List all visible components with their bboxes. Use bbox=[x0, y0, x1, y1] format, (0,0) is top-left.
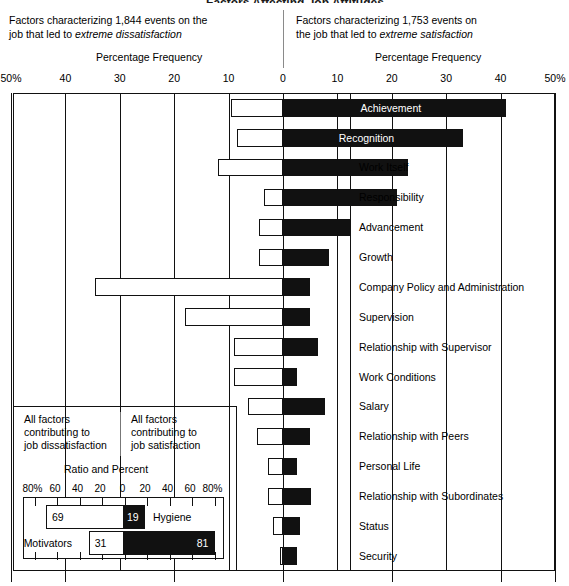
bar-category-label: Work Itself bbox=[359, 161, 408, 173]
bar-row: Achievement bbox=[0, 93, 569, 123]
bar-category-label: Status bbox=[359, 520, 389, 532]
bar-satisfaction bbox=[283, 278, 310, 296]
inset-tick-mark bbox=[35, 552, 36, 560]
inset-title: Ratio and Percent bbox=[64, 463, 148, 475]
bar-category-label: Supervision bbox=[359, 311, 414, 323]
inset-caption-divider bbox=[120, 412, 121, 456]
bar-category-label: Personal Life bbox=[359, 460, 420, 472]
inset-value-positive: 81 bbox=[197, 537, 209, 549]
inset-caption-left: All factorscontributing tojob dissatisfa… bbox=[24, 413, 107, 452]
axis-tick-label: 0 bbox=[263, 72, 303, 84]
bar-dissatisfaction bbox=[234, 338, 283, 356]
inset-tick-mark bbox=[147, 498, 148, 506]
inset-caption-left-line: contributing to bbox=[24, 426, 107, 439]
bar-dissatisfaction bbox=[95, 278, 283, 296]
inset-tick-mark bbox=[215, 552, 216, 560]
bar-row: Recognition bbox=[0, 123, 569, 153]
bar-dissatisfaction bbox=[268, 458, 283, 476]
bar-satisfaction bbox=[283, 219, 351, 237]
bar-satisfaction bbox=[283, 368, 297, 386]
clipped-figure-title: Factors Affecting Job Attitudes bbox=[150, 0, 440, 3]
bar-row: Relationship with Supervisor bbox=[0, 332, 569, 362]
axis-tick-label: 30 bbox=[100, 72, 140, 84]
bar-category-label: Salary bbox=[359, 400, 389, 412]
axis-bottom-tick bbox=[174, 571, 175, 582]
axis-title-right: Percentage Frequency bbox=[375, 51, 481, 63]
caption-left-line2a: job that led to bbox=[9, 28, 75, 40]
bar-dissatisfaction bbox=[264, 189, 283, 207]
bar-dissatisfaction bbox=[268, 488, 283, 506]
bar-row: Growth bbox=[0, 242, 569, 272]
caption-left: Factors characterizing 1,844 events on t… bbox=[9, 14, 259, 41]
bar-category-label: Relationship with Subordinates bbox=[359, 490, 503, 502]
caption-left-emphasis: extreme dissatisfaction bbox=[75, 28, 182, 40]
inset-caption-right: All factorscontributing tojob satisfacti… bbox=[131, 413, 200, 452]
inset-value-negative: 69 bbox=[52, 511, 64, 523]
bar-satisfaction bbox=[283, 308, 310, 326]
axis-tick-label: 20 bbox=[372, 72, 412, 84]
bar-satisfaction bbox=[283, 338, 318, 356]
axis-bottom-tick bbox=[283, 571, 284, 582]
bar-category-label: Advancement bbox=[359, 221, 423, 233]
axis-bottom-tick bbox=[555, 571, 556, 582]
axis-tick-label: 20 bbox=[154, 72, 194, 84]
bar-category-label: Responsibility bbox=[359, 191, 424, 203]
bar-dissatisfaction bbox=[257, 428, 283, 446]
bar-category-label: Growth bbox=[359, 251, 393, 263]
bar-dissatisfaction bbox=[185, 308, 283, 326]
axis-tick-label: 10 bbox=[209, 72, 249, 84]
caption-right-line2a: the job that led to bbox=[296, 28, 379, 40]
inset-row-name: Hygiene bbox=[153, 511, 192, 523]
axis-tick-label: 30 bbox=[426, 72, 466, 84]
bar-dissatisfaction bbox=[259, 219, 283, 237]
axis-tick-label: 50% bbox=[0, 72, 31, 84]
bar-category-label: Relationship with Supervisor bbox=[359, 341, 491, 353]
inset-tick-mark bbox=[35, 498, 36, 506]
bar-dissatisfaction bbox=[237, 129, 283, 147]
inset-caption-left-line: All factors bbox=[24, 413, 107, 426]
bar-satisfaction bbox=[283, 458, 297, 476]
caption-right-line1: Factors characterizing 1,753 events on bbox=[296, 14, 477, 26]
bar-satisfaction bbox=[283, 517, 300, 535]
inset-tick-mark bbox=[192, 498, 193, 506]
inset-value-positive: 19 bbox=[127, 511, 139, 523]
bar-satisfaction bbox=[283, 488, 311, 506]
bar-satisfaction bbox=[283, 428, 310, 446]
inset-tick-label: 80% bbox=[200, 483, 226, 494]
bar-category-label: Company Policy and Administration bbox=[359, 281, 524, 293]
axis-tick-label: 10 bbox=[317, 72, 357, 84]
bar-row: Work Conditions bbox=[0, 362, 569, 392]
bar-dissatisfaction bbox=[273, 517, 283, 535]
bar-dissatisfaction bbox=[248, 398, 283, 416]
axis-bottom-tick bbox=[65, 571, 66, 582]
axis-title-left: Percentage Frequency bbox=[96, 51, 202, 63]
bar-dissatisfaction bbox=[218, 159, 283, 177]
inset-row-name: Motivators bbox=[24, 537, 72, 549]
bar-dissatisfaction bbox=[234, 368, 283, 386]
bar-row: Advancement bbox=[0, 213, 569, 243]
inset-tick-mark bbox=[170, 498, 171, 506]
caption-right-emphasis: extreme satisfaction bbox=[379, 28, 472, 40]
chart-canvas: Factors Affecting Job Attitudes Factors … bbox=[0, 0, 569, 586]
inset-tick-mark bbox=[215, 498, 216, 506]
axis-tick-label: 50% bbox=[535, 72, 569, 84]
bar-category-label: Relationship with Peers bbox=[359, 430, 469, 442]
inset-tick-mark bbox=[57, 552, 58, 560]
bar-dissatisfaction bbox=[231, 99, 283, 117]
bar-row: Company Policy and Administration bbox=[0, 272, 569, 302]
bar-row: Work Itself bbox=[0, 153, 569, 183]
axis-bottom-tick bbox=[11, 571, 12, 582]
axis-tick-label: 40 bbox=[45, 72, 85, 84]
axis-bottom-tick bbox=[501, 571, 502, 582]
caption-divider bbox=[283, 10, 284, 68]
inset-value-negative: 31 bbox=[95, 537, 107, 549]
bar-category-label: Achievement bbox=[361, 102, 422, 114]
inset-caption-right-line: contributing to bbox=[131, 426, 200, 439]
inset-caption-right-line: job satisfaction bbox=[131, 439, 200, 452]
bar-satisfaction bbox=[283, 547, 297, 565]
inset-tick-mark bbox=[80, 552, 81, 560]
caption-right: Factors characterizing 1,753 events on t… bbox=[296, 14, 546, 41]
bar-dissatisfaction bbox=[259, 249, 283, 267]
bar-satisfaction bbox=[283, 249, 329, 267]
bar-row: Responsibility bbox=[0, 183, 569, 213]
